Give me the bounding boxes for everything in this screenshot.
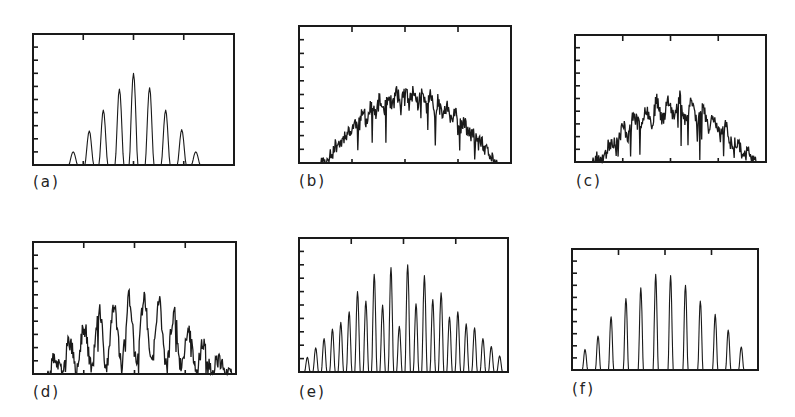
panel-label-c: (c): [576, 172, 602, 190]
panel-label-d: (d): [33, 383, 60, 401]
plot-frame: [33, 34, 234, 165]
spectrum-trace: [299, 86, 511, 163]
plot-area: [572, 249, 758, 370]
panel-label-a: (a): [33, 173, 60, 191]
panel-label-f: (f): [572, 380, 595, 398]
panel-e: [299, 238, 508, 372]
spectrum-trace: [33, 290, 236, 374]
spectrum-trace: [575, 91, 766, 162]
panel-c: [575, 35, 766, 162]
panel-b: [299, 26, 511, 163]
panel-a: [33, 34, 234, 165]
panel-label-b: (b): [299, 172, 326, 190]
spectrum-trace: [33, 73, 234, 165]
panel-d: [33, 242, 236, 374]
plot-area: [299, 26, 511, 163]
spectrum-trace: [299, 265, 508, 372]
plot-area: [33, 34, 234, 165]
panel-f: [572, 249, 758, 370]
plot-area: [575, 35, 766, 162]
plot-area: [33, 242, 236, 374]
plot-area: [299, 238, 508, 372]
spectrum-trace: [572, 274, 758, 370]
panel-label-e: (e): [299, 383, 326, 401]
